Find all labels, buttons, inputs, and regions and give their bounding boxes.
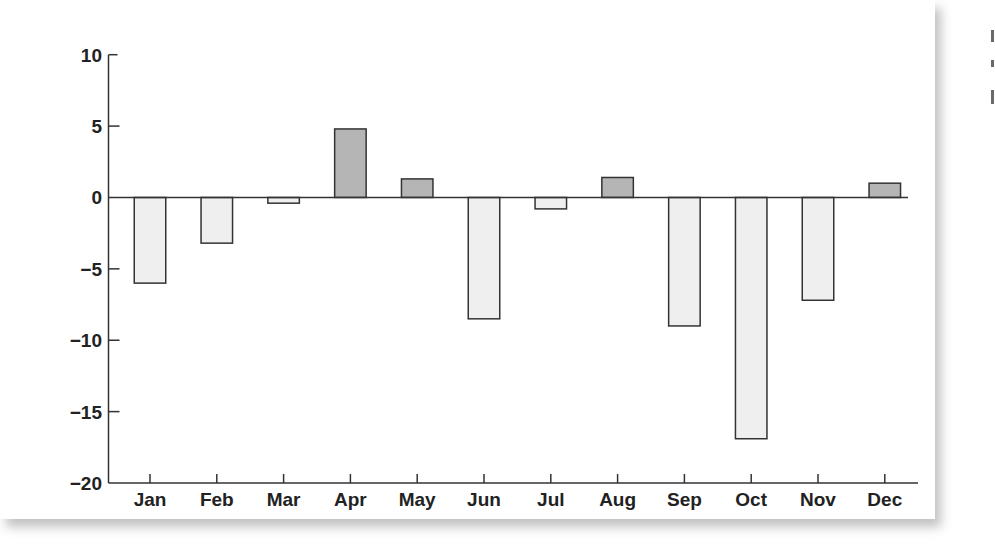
x-tick-label-may: May: [399, 489, 436, 510]
bar-jul: [535, 197, 567, 208]
bar-feb: [201, 197, 233, 243]
chart-card: 1050−5−10−15−20 JanFebMarAprMayJunJulAug…: [0, 0, 935, 519]
y-tick-label: 10: [81, 45, 102, 66]
bar-apr: [335, 129, 367, 198]
bar-nov: [802, 197, 834, 300]
x-tick-label-mar: Mar: [267, 489, 301, 510]
y-tick-label: −20: [70, 473, 102, 494]
bar-mar: [268, 197, 300, 203]
y-tick-label: 5: [91, 116, 102, 137]
clipped-text-fragments: [991, 0, 995, 120]
bar-oct: [735, 197, 767, 438]
bar-jan: [134, 197, 166, 283]
clipped-glyph: [991, 30, 994, 42]
bar-chart: 1050−5−10−15−20 JanFebMarAprMayJunJulAug…: [0, 0, 935, 519]
clipped-glyph: [991, 60, 994, 67]
x-tick-label-sep: Sep: [667, 489, 702, 510]
x-tick-label-feb: Feb: [200, 489, 234, 510]
x-tick-label-nov: Nov: [800, 489, 836, 510]
x-tick-label-oct: Oct: [735, 489, 767, 510]
bars: [134, 129, 900, 439]
bar-dec: [869, 183, 901, 197]
y-tick-label: 0: [91, 187, 102, 208]
y-axis: 1050−5−10−15−20: [70, 45, 120, 494]
bar-may: [401, 179, 433, 198]
x-tick-label-jun: Jun: [467, 489, 501, 510]
x-axis: JanFebMarAprMayJunJulAugSepOctNovDec: [109, 474, 919, 510]
x-tick-label-jul: Jul: [537, 489, 564, 510]
clipped-glyph: [991, 90, 994, 104]
y-tick-label: −15: [70, 402, 103, 423]
y-tick-label: −10: [70, 330, 102, 351]
x-tick-label-aug: Aug: [599, 489, 636, 510]
x-tick-label-apr: Apr: [334, 489, 367, 510]
y-tick-label: −5: [80, 259, 102, 280]
bar-aug: [602, 177, 634, 197]
x-tick-label-jan: Jan: [134, 489, 167, 510]
x-tick-label-dec: Dec: [867, 489, 902, 510]
bar-jun: [468, 197, 500, 318]
bar-sep: [669, 197, 701, 325]
